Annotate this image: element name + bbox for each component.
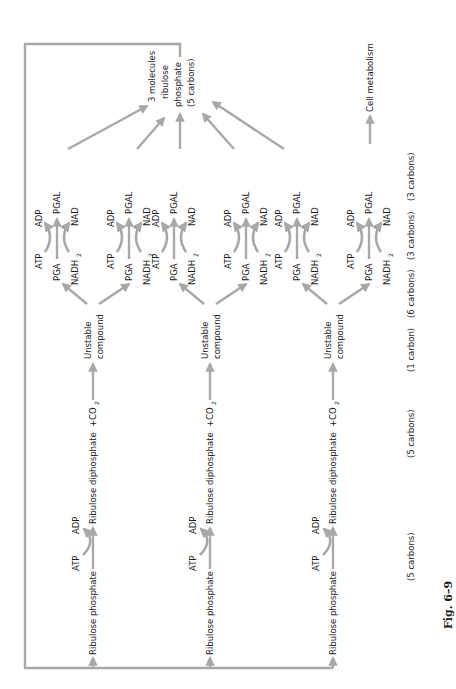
pgal-label: PGAL — [292, 191, 302, 214]
adp-label: ADP — [71, 517, 81, 535]
nadh-label: NADH — [382, 260, 392, 285]
unstable-compound-line-2: compound — [335, 314, 345, 359]
cell-metabolism-label: Cell metabolism — [365, 43, 375, 112]
atp-label: ATP — [223, 254, 233, 269]
adp-label: ADP — [274, 210, 284, 228]
pgal-arrow-4 — [203, 114, 234, 149]
pgal-label: PGAL — [241, 191, 251, 214]
pga-label: PGA — [52, 263, 62, 281]
co2-subscript: 2 — [210, 401, 217, 405]
adp-label: ADP — [106, 210, 116, 228]
pgal-arrow-2 — [137, 118, 164, 149]
nadh-nad-arc — [253, 223, 258, 252]
nadh-nad-arc — [64, 223, 69, 252]
atp-adp-arc — [83, 529, 90, 555]
pga-label: PGA — [169, 263, 179, 281]
ribulose-diphosphate-label: Ribulose diphosphate — [328, 432, 338, 524]
carbon-label-ribulose-diphosphate: (5 carbons) — [406, 409, 416, 458]
split-arrow-left — [303, 284, 327, 304]
adp-label: ADP — [223, 210, 233, 228]
atp-adp-arc — [323, 529, 330, 555]
nadh-label: NADH — [259, 260, 269, 285]
pgal-label: PGAL — [169, 191, 179, 214]
ribulose-diphosphate-label: Ribulose diphosphate — [88, 432, 98, 524]
figure-caption: Fig. 6–9 — [442, 581, 455, 629]
pgal-arrow-1 — [68, 106, 147, 149]
output-label: 3 molecules ribulose phosphate (5 carbon… — [147, 50, 196, 107]
output-line-3: phosphate — [173, 62, 183, 107]
pgal-label: PGAL — [364, 191, 374, 214]
reduction-branch: PGAATPADPNADH2NADPGAL — [151, 191, 199, 285]
carbon-label-pgal: (3 carbons) — [406, 152, 416, 201]
split-arrow-right — [339, 284, 369, 304]
pga-label: PGA — [364, 263, 374, 281]
pathway-row-1: Ribulose phosphateATPADPRibulose diphosp… — [34, 191, 154, 655]
pga-label: PGA — [124, 263, 134, 281]
nad-label: NAD — [187, 207, 197, 226]
nadh-subscript: 2 — [75, 253, 82, 257]
atp-adp-arc — [234, 223, 239, 252]
adp-label: ADP — [346, 210, 356, 228]
nad-label: NAD — [382, 207, 392, 226]
reduction-branch: PGAATPADPNADH2NADPGAL — [274, 191, 322, 285]
reduction-branch: PGAATPADPNADH2NADPGAL — [34, 191, 82, 285]
split-arrow-right — [99, 284, 129, 304]
unstable-compound-line-2: compound — [95, 314, 105, 359]
pgal-label: PGAL — [124, 191, 134, 214]
atp-adp-arc — [357, 223, 362, 252]
ribulose-phosphate-label: Ribulose phosphate — [328, 571, 338, 655]
pathway-row-3: Ribulose phosphateATPADPRibulose diphosp… — [274, 191, 394, 655]
plus-co2-label: +CO — [88, 407, 98, 427]
nadh-nad-arc — [136, 223, 141, 252]
atp-label: ATP — [34, 254, 44, 269]
atp-label: ATP — [274, 254, 284, 269]
pga-label: PGA — [292, 263, 302, 281]
ribulose-phosphate-label: Ribulose phosphate — [205, 571, 215, 655]
carbon-labels: (5 carbons) (5 carbons) (1 carbon) (6 ca… — [406, 152, 416, 581]
output-line-1: 3 molecules — [147, 50, 157, 102]
unstable-compound-line-2: compound — [212, 314, 222, 359]
nadh-label: NADH — [187, 260, 197, 285]
atp-adp-arc — [162, 223, 167, 252]
pga-label: PGA — [241, 263, 251, 281]
atp-label: ATP — [71, 556, 81, 571]
adp-label: ADP — [34, 210, 44, 228]
output-line-4: (5 carbons) — [186, 58, 196, 107]
atp-adp-arc — [117, 223, 122, 252]
co2-subscript: 2 — [93, 401, 100, 405]
split-arrow-left — [180, 284, 204, 304]
nadh-nad-arc — [304, 223, 309, 252]
unstable-compound-line-1: Unstable — [323, 321, 333, 359]
calvin-cycle-diagram: Ribulose phosphateATPADPRibulose diphosp… — [0, 0, 456, 689]
adp-label: ADP — [311, 517, 321, 535]
plus-co2-label: +CO — [205, 407, 215, 427]
nadh-label: NADH — [310, 260, 320, 285]
nadh-subscript: 2 — [192, 253, 199, 257]
atp-label: ATP — [188, 556, 198, 571]
nad-label: NAD — [70, 207, 80, 226]
co2-subscript: 2 — [333, 401, 340, 405]
atp-adp-arc — [285, 223, 290, 252]
output-line-2: ribulose — [160, 65, 170, 99]
atp-adp-arc — [45, 223, 50, 252]
ribulose-diphosphate-label: Ribulose diphosphate — [205, 432, 215, 524]
adp-label: ADP — [151, 210, 161, 228]
pgal-to-output-arrows — [68, 102, 284, 149]
carbon-label-co2: (1 carbon) — [406, 328, 416, 372]
unstable-compound-line-1: Unstable — [83, 321, 93, 359]
carbon-label-unstable: (6 carbons) — [406, 269, 416, 318]
nadh-subscript: 2 — [315, 253, 322, 257]
nad-label: NAD — [259, 207, 269, 226]
ribulose-phosphate-label: Ribulose phosphate — [88, 571, 98, 655]
atp-label: ATP — [311, 556, 321, 571]
plus-co2-label: +CO — [328, 407, 338, 427]
nadh-label: NADH — [70, 260, 80, 285]
atp-label: ATP — [151, 254, 161, 269]
nadh-subscript: 2 — [387, 253, 394, 257]
reduction-branch: PGAATPADPNADH2NADPGAL — [223, 191, 271, 285]
unstable-compound-line-1: Unstable — [200, 321, 210, 359]
reduction-branch: PGAATPADPNADH2NADPGAL — [346, 191, 394, 285]
nadh-nad-arc — [376, 223, 381, 252]
atp-label: ATP — [346, 254, 356, 269]
reduction-branch: PGAATPADPNADH2NADPGAL — [106, 191, 154, 285]
